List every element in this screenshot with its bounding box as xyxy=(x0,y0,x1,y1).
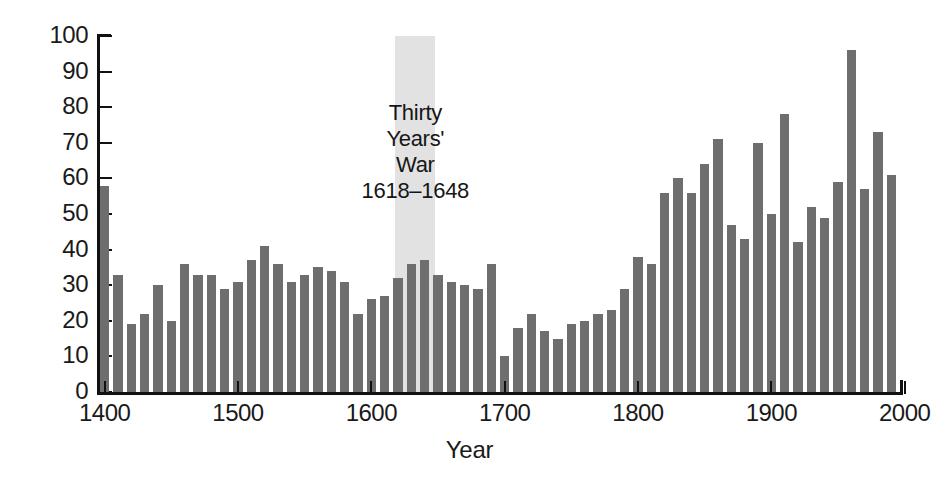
bar xyxy=(767,214,776,392)
x-axis-tick-label: 1500 xyxy=(183,400,293,426)
x-axis-tick xyxy=(637,381,639,394)
x-axis-right-cap xyxy=(900,380,903,395)
bar xyxy=(313,267,322,392)
bar-chart: 0102030405060708090100 Thirty Years' War… xyxy=(0,0,939,481)
bar xyxy=(447,282,456,392)
bar xyxy=(180,264,189,392)
y-axis-tick-label: 90 xyxy=(18,59,88,83)
bar xyxy=(220,289,229,392)
bar xyxy=(287,282,296,392)
bar xyxy=(473,289,482,392)
bar xyxy=(420,260,429,392)
bar xyxy=(553,339,562,392)
bar xyxy=(193,275,202,392)
bar xyxy=(300,275,309,392)
bar xyxy=(167,321,176,392)
bar xyxy=(513,328,522,392)
bar xyxy=(460,285,469,392)
y-axis-tick-label: 30 xyxy=(18,272,88,296)
y-axis-tick-label: 80 xyxy=(18,94,88,118)
bar xyxy=(673,178,682,392)
bar xyxy=(620,289,629,392)
x-axis-tick-label: 1900 xyxy=(716,400,826,426)
x-axis-line xyxy=(97,392,903,395)
bar xyxy=(527,314,536,392)
bar xyxy=(660,193,669,392)
x-axis-tick-label: 2000 xyxy=(850,400,939,426)
bar xyxy=(367,299,376,392)
bar xyxy=(847,50,856,392)
y-axis-tick-label: 100 xyxy=(18,23,88,47)
bar xyxy=(407,264,416,392)
bar xyxy=(233,282,242,392)
x-axis-tick xyxy=(904,381,906,394)
bar xyxy=(487,264,496,392)
bar xyxy=(580,321,589,392)
y-axis-tick-label: 40 xyxy=(18,237,88,261)
bar xyxy=(633,257,642,392)
bar xyxy=(153,285,162,392)
x-axis-tick-label: 1600 xyxy=(316,400,426,426)
bar xyxy=(753,143,762,392)
bar xyxy=(353,314,362,392)
plot-area xyxy=(98,36,898,392)
y-axis-tick-label: 50 xyxy=(18,201,88,225)
thirty-years-war-annotation: Thirty Years' War 1618–1648 xyxy=(295,100,535,204)
bar xyxy=(380,296,389,392)
bar xyxy=(260,246,269,392)
bar xyxy=(207,275,216,392)
bar xyxy=(713,139,722,392)
bar xyxy=(247,260,256,392)
bar xyxy=(860,189,869,392)
bar xyxy=(340,282,349,392)
bar xyxy=(273,264,282,392)
y-axis-tick-label: 10 xyxy=(18,343,88,367)
x-axis-tick xyxy=(504,381,506,394)
bar xyxy=(740,239,749,392)
bar xyxy=(727,225,736,392)
bar xyxy=(113,275,122,392)
bar xyxy=(327,271,336,392)
y-axis-tick-label: 20 xyxy=(18,308,88,332)
x-axis-label: Year xyxy=(0,437,939,463)
bar xyxy=(833,182,842,392)
bar xyxy=(100,186,109,392)
y-axis-tick-label: 60 xyxy=(18,165,88,189)
bar xyxy=(780,114,789,392)
bar xyxy=(607,310,616,392)
y-axis-tick-label: 70 xyxy=(18,130,88,154)
x-axis-tick xyxy=(104,381,106,394)
x-axis-tick-label: 1700 xyxy=(450,400,560,426)
bar xyxy=(393,278,402,392)
bar xyxy=(647,264,656,392)
bar xyxy=(593,314,602,392)
bar xyxy=(433,275,442,392)
bar xyxy=(700,164,709,392)
bar xyxy=(887,175,896,392)
bar xyxy=(140,314,149,392)
bar xyxy=(793,242,802,392)
x-axis-tick-label: 1800 xyxy=(583,400,693,426)
x-axis-tick xyxy=(237,381,239,394)
bar xyxy=(567,324,576,392)
bar xyxy=(873,132,882,392)
bar xyxy=(540,331,549,392)
bar xyxy=(820,218,829,392)
bar xyxy=(807,207,816,392)
x-axis-tick xyxy=(370,381,372,394)
x-axis-tick xyxy=(770,381,772,394)
bar xyxy=(127,324,136,392)
bar xyxy=(687,193,696,392)
x-axis-tick-label: 1400 xyxy=(50,400,160,426)
